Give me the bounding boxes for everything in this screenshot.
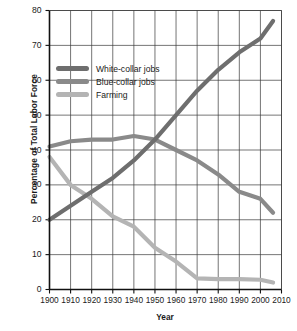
y-tick-label: 10: [16, 250, 42, 259]
legend-label: Blue-collar jobs: [96, 77, 155, 87]
y-tick-label: 0: [16, 285, 42, 294]
legend-swatch-icon: [56, 66, 89, 71]
legend-item[interactable]: Farming: [56, 88, 160, 101]
plot-canvas: [0, 0, 296, 331]
y-tick-label: 50: [16, 111, 42, 120]
x-tick-label: 2010: [267, 296, 297, 305]
y-tick-label: 30: [16, 180, 42, 189]
legend-label: Farming: [96, 90, 128, 100]
legend-label: White-collar jobs: [96, 64, 160, 74]
chart-figure: Percentage of Total Labor Force Year 010…: [0, 0, 296, 331]
legend-item[interactable]: Blue-collar jobs: [56, 75, 160, 88]
y-tick-label: 40: [16, 146, 42, 155]
legend-item[interactable]: White-collar jobs: [56, 62, 160, 75]
y-tick-label: 80: [16, 6, 42, 15]
legend-swatch-icon: [56, 79, 89, 84]
y-tick-label: 70: [16, 41, 42, 50]
y-tick-label: 20: [16, 215, 42, 224]
chart-legend: White-collar jobsBlue-collar jobsFarming: [56, 62, 160, 101]
legend-swatch-icon: [56, 92, 89, 97]
grid-lines: [50, 11, 282, 290]
y-tick-label: 60: [16, 76, 42, 85]
